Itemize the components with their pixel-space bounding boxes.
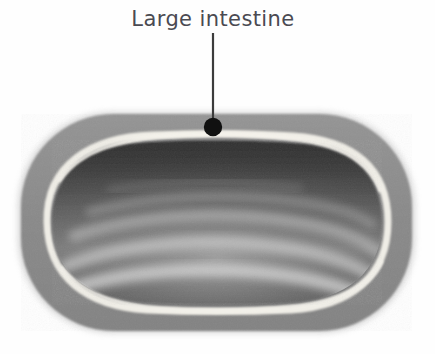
intestine-cross-section-illustration: Large intestine <box>0 0 435 354</box>
mucosa-lumen <box>52 141 382 306</box>
leader-dot <box>204 118 222 136</box>
label-large-intestine: Large intestine <box>131 7 294 31</box>
figure-root: Large intestine <box>0 0 435 354</box>
